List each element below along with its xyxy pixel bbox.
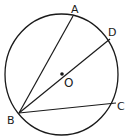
- geometry-diagram: A D C B O: [0, 0, 126, 138]
- chord-bc: [19, 103, 116, 113]
- label-a: A: [71, 3, 79, 16]
- label-b: B: [7, 114, 15, 127]
- label-c: C: [117, 100, 125, 113]
- label-d: D: [108, 26, 116, 39]
- label-o: O: [64, 76, 73, 90]
- chord-ba: [19, 16, 73, 113]
